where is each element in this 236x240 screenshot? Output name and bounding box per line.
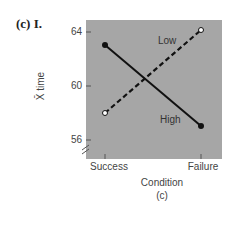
x-axis-label: Condition bbox=[141, 177, 183, 188]
figure-caption: (c) bbox=[156, 190, 168, 201]
y-tick-label-64: 64 bbox=[60, 26, 82, 37]
series-label-low: Low bbox=[158, 35, 176, 46]
x-tick-label-failure: Failure bbox=[188, 161, 219, 172]
low-success-marker bbox=[103, 111, 108, 116]
x-tick-label-success: Success bbox=[90, 161, 128, 172]
y-tick-label-56: 56 bbox=[60, 134, 82, 145]
series-label-high: High bbox=[160, 114, 181, 125]
y-tick-label-60: 60 bbox=[60, 80, 82, 91]
plot-background bbox=[86, 20, 222, 159]
high-failure-marker bbox=[198, 123, 204, 129]
high-success-marker bbox=[102, 42, 108, 48]
low-failure-marker bbox=[199, 28, 204, 33]
